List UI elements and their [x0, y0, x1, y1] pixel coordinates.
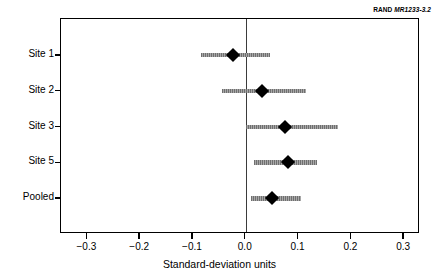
x-axis-tick-label: 0.2	[330, 241, 370, 252]
y-axis-tick	[55, 90, 61, 91]
plot-area	[61, 19, 418, 232]
plot-row	[61, 191, 418, 205]
estimate-marker	[265, 191, 279, 205]
y-axis-label-site-2: Site 2	[28, 85, 54, 95]
x-axis-tick	[350, 233, 351, 239]
forest-plot-figure: RAND MR1233-3.2 Standard-deviation units…	[0, 0, 439, 277]
estimate-marker	[281, 155, 295, 169]
x-axis-tick-label: 0.0	[225, 241, 265, 252]
x-axis-tick-label: 0.3	[383, 241, 423, 252]
y-axis-label-site-3: Site 3	[28, 121, 54, 131]
estimate-marker	[278, 119, 292, 133]
x-axis-title: Standard-deviation units	[0, 258, 439, 270]
x-axis-tick	[86, 233, 87, 239]
x-axis-tick	[244, 233, 245, 239]
y-axis-label-site-5: Site 5	[28, 156, 54, 166]
plot-row	[61, 155, 418, 169]
y-axis-tick	[55, 197, 61, 198]
x-axis-tick	[191, 233, 192, 239]
plot-row	[61, 120, 418, 134]
x-axis-tick	[297, 233, 298, 239]
x-axis-tick-label: −0.3	[66, 241, 106, 252]
x-axis-tick	[138, 233, 139, 239]
y-axis-label-site-1: Site 1	[28, 49, 54, 59]
x-axis-tick-label: −0.1	[172, 241, 212, 252]
plot-row	[61, 84, 418, 98]
x-axis-tick-label: −0.2	[119, 241, 159, 252]
y-axis-label-pooled: Pooled	[23, 192, 54, 202]
source-org: RAND	[373, 6, 392, 13]
y-axis-tick	[55, 126, 61, 127]
x-axis-tick-label: 0.1	[278, 241, 318, 252]
plot-row	[61, 48, 418, 62]
source-ref: MR1233-3.2	[394, 6, 431, 13]
plot-frame	[60, 18, 419, 233]
estimate-marker	[226, 48, 240, 62]
y-axis-tick	[55, 162, 61, 163]
x-axis-tick	[402, 233, 403, 239]
y-axis-tick	[55, 54, 61, 55]
source-credit: RAND MR1233-3.2	[373, 6, 431, 13]
estimate-marker	[255, 84, 269, 98]
